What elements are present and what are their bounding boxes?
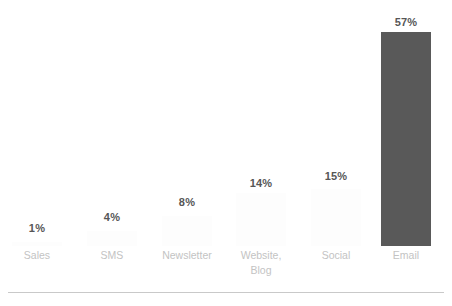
category-label-line1: Website, [241,249,282,261]
plot-area: 1% 4% 8% 14% [0,0,452,246]
bar-value-newsletter: 8% [162,196,212,208]
bar-social[interactable] [311,189,361,246]
category-label-sms: SMS [75,248,149,263]
bar-chart: 1% 4% 8% 14% [0,0,452,306]
bar-sms[interactable] [87,231,137,246]
category-label-email: Email [369,248,443,263]
bar-value-email: 57% [381,16,431,28]
bar-group-website-blog[interactable]: 14% [236,0,286,246]
bar-value-sms: 4% [87,211,137,223]
category-label-line1: Social [322,249,351,261]
bar-website-blog[interactable] [236,193,286,246]
bottom-divider-rule [8,292,444,293]
bar-value-social: 15% [311,170,361,182]
bar-column: 14% [236,0,286,246]
category-label-social: Social [299,248,373,263]
bar-column: 57% [381,0,431,246]
bar-column: 4% [87,0,137,246]
bar-email[interactable] [381,32,431,246]
bar-group-email[interactable]: 57% [381,0,431,246]
bar-column: 8% [162,0,212,246]
bar-value-sales: 1% [12,222,62,234]
category-label-sales: Sales [0,248,74,263]
bar-newsletter[interactable] [162,216,212,246]
category-label-line1: Email [393,249,419,261]
bar-column: 15% [311,0,361,246]
category-label-website-blog: Website, Blog [224,248,298,277]
category-axis: Sales SMS Newsletter Website, Blog Socia… [0,248,452,292]
bar-group-sales[interactable]: 1% [12,0,62,246]
category-label-line1: Newsletter [162,249,212,261]
bar-group-newsletter[interactable]: 8% [162,0,212,246]
bar-column: 1% [12,0,62,246]
category-label-line2: Blog [224,263,298,278]
category-label-newsletter: Newsletter [150,248,224,263]
bar-value-website-blog: 14% [236,177,286,189]
bar-group-social[interactable]: 15% [311,0,361,246]
bar-sales[interactable] [12,242,62,246]
category-label-line1: Sales [24,249,50,261]
bar-group-sms[interactable]: 4% [87,0,137,246]
category-label-line1: SMS [101,249,124,261]
